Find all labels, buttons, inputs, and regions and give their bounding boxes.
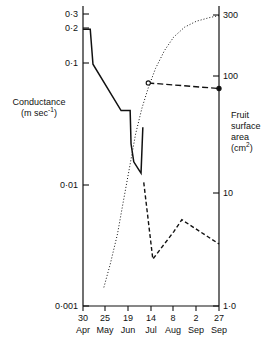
series-conductance-dashed <box>144 182 219 259</box>
y-right-tick-label-1: 100 <box>223 71 238 81</box>
data-point-marker <box>217 86 221 90</box>
x-tick-label-month-1: May <box>93 325 117 335</box>
y-left-ticks <box>83 14 89 306</box>
y-left-tick-label-3: 0·01 <box>46 180 78 190</box>
y-right-axis-title-line1: Fruit <box>231 110 249 120</box>
y-left-axis-title-line1: Conductance <box>12 97 65 107</box>
y-right-ticks <box>213 15 219 306</box>
x-tick-label-day-1: 25 <box>93 313 117 323</box>
x-tick-label-month-3: Jul <box>139 325 163 335</box>
chart-figure <box>0 0 278 340</box>
y-right-axis-title-line4-end: ) <box>250 143 253 153</box>
x-tick-label-month-0: Apr <box>71 325 95 335</box>
x-tick-label-month-5: Sep <box>184 325 208 335</box>
series-layer <box>83 16 221 288</box>
x-tick-label-day-3: 14 <box>139 313 163 323</box>
y-left-axis-title: Conductance (m sec-1) <box>0 97 78 119</box>
x-tick-label-month-4: Aug <box>161 325 185 335</box>
y-right-tick-label-3: 1·0 <box>223 301 236 311</box>
x-tick-label-day-5: 2 <box>184 313 208 323</box>
y-right-axis-title-line4: (cm <box>231 143 246 153</box>
series-fruit-surface-area-markers <box>146 81 221 91</box>
x-ticks <box>83 306 219 311</box>
x-tick-label-day-2: 19 <box>116 313 140 323</box>
x-tick-label-month-2: Jun <box>116 325 140 335</box>
series-fruit-surface-area-dotted <box>104 16 219 288</box>
x-tick-label-day-0: 30 <box>71 313 95 323</box>
y-left-tick-label-4: 0·001 <box>40 301 78 311</box>
x-tick-label-day-4: 8 <box>161 313 185 323</box>
y-left-tick-label-0: 0·3 <box>52 9 78 19</box>
data-point-marker <box>146 81 150 85</box>
series-fruit-surface-area-measured <box>148 83 219 89</box>
x-tick-label-month-6: Sep <box>207 325 231 335</box>
series-conductance-solid <box>83 29 143 173</box>
y-right-axis-title: Fruit surface area (cm2) <box>231 110 277 154</box>
y-right-axis-title-line2: surface <box>231 121 261 131</box>
y-left-tick-label-2: 0·1 <box>52 58 78 68</box>
x-tick-label-day-6: 27 <box>207 313 231 323</box>
y-right-tick-label-2: 10 <box>223 188 233 198</box>
y-left-axis-title-line2-end: ) <box>54 108 57 118</box>
y-left-axis-title-line2: (m sec <box>21 108 48 118</box>
plot-frame <box>83 6 219 306</box>
y-left-tick-label-1: 0·2 <box>52 23 78 33</box>
y-right-tick-label-0: 300 <box>223 10 238 20</box>
